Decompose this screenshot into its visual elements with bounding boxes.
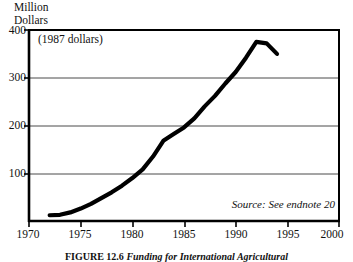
figure-number: FIGURE 12.6 [65, 251, 124, 262]
figure-caption: FIGURE 12.6 Funding for International Ag… [0, 251, 353, 262]
figure-caption-text: Funding for International Agricultural [126, 251, 288, 262]
plot-area [0, 0, 353, 262]
data-series-funding [50, 42, 277, 215]
figure-container: Million Dollars 400 300 200 100 1970 197… [0, 0, 353, 262]
